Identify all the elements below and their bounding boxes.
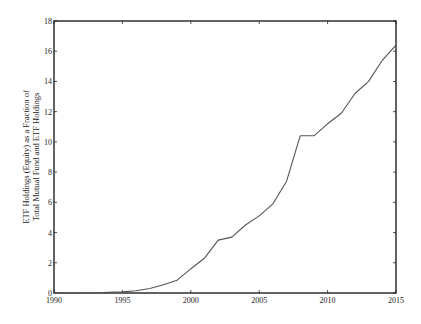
x-tick-label: 1990	[46, 296, 62, 305]
y-tick-label: 2	[48, 259, 52, 268]
plot-frame	[54, 21, 396, 293]
x-tick-label: 2005	[251, 296, 267, 305]
y-tick-label: 12	[44, 108, 52, 117]
x-tick-label: 2015	[388, 296, 404, 305]
x-axis-ticks: 199019952000200520102015	[46, 21, 404, 305]
data-series	[54, 45, 396, 293]
y-axis-label-line2: Total Mutual Fund and ETF Holdings	[31, 93, 41, 222]
y-tick-label: 10	[44, 138, 52, 147]
y-tick-label: 6	[48, 198, 52, 207]
x-tick-label: 2010	[320, 296, 336, 305]
x-tick-label: 2000	[183, 296, 199, 305]
y-tick-label: 14	[44, 77, 52, 86]
series-line	[54, 45, 396, 293]
y-axis-label-line1: ETF Holdings (Equity) as a Fraction of	[21, 90, 31, 224]
y-tick-label: 16	[44, 47, 52, 56]
x-tick-label: 1995	[114, 296, 130, 305]
y-tick-label: 4	[48, 229, 52, 238]
line-chart: 024681012141618 199019952000200520102015…	[0, 0, 421, 324]
y-tick-label: 8	[48, 168, 52, 177]
plot-border	[54, 21, 396, 293]
y-axis-ticks: 024681012141618	[44, 17, 396, 298]
y-tick-label: 18	[44, 17, 52, 26]
